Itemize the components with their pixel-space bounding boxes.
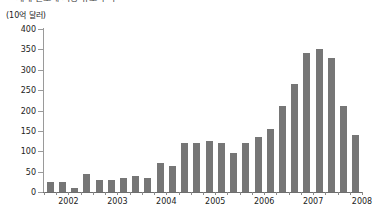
x-tick-mark [154,192,155,195]
bar [83,174,90,192]
bar [132,176,139,192]
y-tick-mark [38,49,43,50]
x-tick-mark [81,192,82,195]
y-tick-label: 200 [21,106,36,115]
x-tick-mark [142,192,143,195]
y-tick-mark [38,90,43,91]
x-tick-mark [215,192,216,195]
bar [352,135,359,192]
bar [71,188,78,192]
bar [181,143,188,192]
bar-chart: 세계 반도체 시장 규모 추이 (10억 달러) 050100150200250… [0,0,376,224]
x-tick-label: 2006 [254,197,274,206]
x-tick-mark [105,192,106,195]
y-tick-label: 300 [21,65,36,74]
bar [96,180,103,192]
x-tick-mark [325,192,326,195]
bar [120,178,127,192]
bar [291,84,298,192]
y-tick-mark [38,172,43,173]
bar [108,180,115,192]
bar [340,106,347,192]
y-tick-mark [38,29,43,30]
y-tick-label: 50 [26,167,36,176]
x-tick-mark [338,192,339,195]
x-tick-mark [301,192,302,195]
bar [255,137,262,192]
x-tick-label: 2003 [107,197,127,206]
y-tick-mark [38,131,43,132]
x-tick-mark [179,192,180,195]
x-tick-mark [117,192,118,195]
y-tick-mark [38,151,43,152]
y-tick-label: 150 [21,126,36,135]
x-tick-mark [166,192,167,195]
y-tick-label: 100 [21,147,36,156]
y-tick-mark [38,192,43,193]
x-tick-mark [289,192,290,195]
x-tick-label: 2004 [156,197,176,206]
chart-title-text: 세계 반도체 시장 규모 추이 [16,0,356,3]
x-tick-mark [264,192,265,195]
bar [144,178,151,192]
x-tick-mark [44,192,45,195]
x-tick-mark [350,192,351,195]
bar [59,182,66,192]
bar [169,166,176,192]
x-tick-mark [276,192,277,195]
bar [303,53,310,192]
x-tick-mark [130,192,131,195]
x-tick-label: 2002 [58,197,78,206]
bar [230,153,237,192]
bar [267,129,274,192]
bar [218,143,225,192]
bar [279,106,286,192]
x-tick-mark [362,192,363,195]
x-tick-label: 2005 [205,197,225,206]
bar [206,141,213,192]
y-tick-label: 250 [21,86,36,95]
x-tick-mark [240,192,241,195]
bar [193,143,200,192]
y-axis-unit-label: (10억 달러) [6,9,46,20]
y-tick-label: 0 [31,188,36,197]
x-tick-mark [252,192,253,195]
x-tick-mark [313,192,314,195]
bar-series [44,29,362,192]
bar [316,49,323,192]
x-tick-label: 2007 [303,197,323,206]
y-tick-mark [38,111,43,112]
chart-title-clipped: 세계 반도체 시장 규모 추이 [16,0,356,3]
x-tick-mark [203,192,204,195]
y-tick-label: 350 [21,45,36,54]
x-tick-mark [56,192,57,195]
x-tick-mark [227,192,228,195]
x-tick-mark [93,192,94,195]
bar [47,182,54,192]
bar [157,163,164,192]
x-tick-label: 2008 [352,197,372,206]
x-tick-mark [68,192,69,195]
y-tick-mark [38,70,43,71]
bar [328,58,335,192]
y-tick-label: 400 [21,25,36,34]
x-tick-mark [191,192,192,195]
bar [242,143,249,192]
